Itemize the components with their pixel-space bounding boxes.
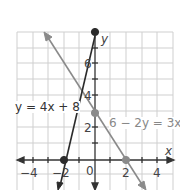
tick-label-y-2: 2: [84, 122, 92, 134]
equation-label-line2: 6 − 2y = 3x: [109, 117, 180, 129]
point-0-8: [91, 28, 98, 35]
tick-label-x-0: 0: [86, 165, 94, 177]
point-2-0: [122, 156, 129, 163]
tick-label-y-6: 6: [84, 58, 92, 70]
equation-label-line1: y = 4x + 8: [15, 101, 80, 113]
tick-label-x-4: 4: [153, 167, 161, 179]
x-axis-label: x: [165, 145, 172, 157]
tick-label-y-4: 4: [84, 90, 92, 102]
tick-label-x-neg2: −2: [52, 167, 70, 179]
tick-label-x-2: 2: [122, 167, 130, 179]
tick-label-x-neg4: −4: [20, 167, 38, 179]
point-neg2-0: [60, 156, 67, 163]
point-0-3: [91, 109, 98, 116]
y-axis-label: y: [101, 33, 108, 45]
